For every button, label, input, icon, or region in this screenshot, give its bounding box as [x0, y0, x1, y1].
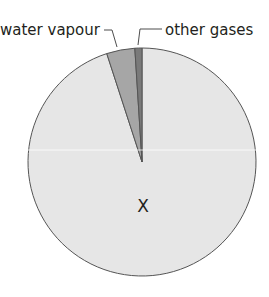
other-gases-leader-line	[138, 29, 162, 45]
water-vapour-label: water vapour	[0, 21, 101, 39]
pie-chart: water vapour other gases X	[0, 0, 269, 297]
x-slice-label: X	[137, 196, 149, 216]
other-gases-label: other gases	[165, 21, 253, 39]
pie-slices	[28, 48, 256, 276]
water-vapour-leader-line	[104, 30, 117, 47]
